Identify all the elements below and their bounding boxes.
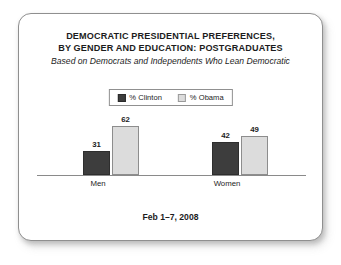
- category-label-men: Men: [90, 179, 105, 188]
- chart-subtitle: Based on Democrats and Independents Who …: [19, 56, 322, 67]
- legend-label-obama: % Obama: [190, 93, 224, 102]
- bar-wrap-men-obama: 62: [112, 116, 139, 175]
- chart-card: DEMOCRATIC PRESIDENTIAL PREFERENCES, BY …: [18, 13, 323, 241]
- title-block: DEMOCRATIC PRESIDENTIAL PREFERENCES, BY …: [19, 30, 322, 67]
- bar-value-women-clinton: 42: [221, 132, 230, 140]
- bar-women-clinton: [212, 142, 239, 175]
- category-label-women: Women: [214, 179, 241, 188]
- chart-legend: % Clinton % Obama: [108, 89, 232, 106]
- legend-swatch-obama-icon: [178, 94, 186, 102]
- axis-baseline: [37, 175, 306, 176]
- bar-value-men-clinton: 31: [92, 141, 101, 149]
- legend-item-clinton: % Clinton: [117, 93, 162, 102]
- bar-wrap-men-clinton: 31: [83, 141, 110, 176]
- bar-value-men-obama: 62: [121, 116, 130, 124]
- bar-wrap-women-clinton: 42: [212, 132, 239, 175]
- legend-swatch-clinton-icon: [117, 94, 125, 102]
- legend-item-obama: % Obama: [178, 93, 224, 102]
- chart-title-line-2: BY GENDER AND EDUCATION: POSTGRADUATES: [19, 42, 322, 54]
- bar-men-clinton: [83, 151, 110, 176]
- bar-value-women-obama: 49: [250, 126, 259, 134]
- chart-footer-date: Feb 1–7, 2008: [19, 212, 322, 222]
- bar-group-men: 31 62: [83, 109, 139, 175]
- bar-women-obama: [241, 136, 268, 175]
- bar-group-women: 42 49: [212, 109, 268, 175]
- chart-title-line-1: DEMOCRATIC PRESIDENTIAL PREFERENCES,: [19, 30, 322, 42]
- category-labels: Men Women: [37, 179, 306, 191]
- bar-men-obama: [112, 126, 139, 175]
- plot-area: 31 62 42 49: [37, 109, 306, 176]
- chart-screenshot: DEMOCRATIC PRESIDENTIAL PREFERENCES, BY …: [0, 0, 341, 265]
- bar-wrap-women-obama: 49: [241, 126, 268, 175]
- legend-label-clinton: % Clinton: [129, 93, 162, 102]
